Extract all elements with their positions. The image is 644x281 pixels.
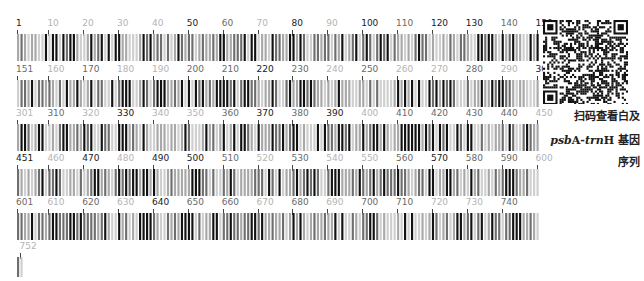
position-label: 560 bbox=[396, 153, 413, 163]
qr-code-icon bbox=[543, 20, 628, 104]
position-label: 710 bbox=[396, 197, 413, 207]
barcode-row-451-600: 4514604704804905005105205305405505605705… bbox=[17, 153, 541, 195]
position-label: 40 bbox=[152, 18, 163, 28]
position-label: 660 bbox=[222, 197, 239, 207]
position-label: 80 bbox=[291, 18, 302, 28]
position-label: 620 bbox=[82, 197, 99, 207]
position-label: 650 bbox=[187, 197, 204, 207]
position-label: 490 bbox=[152, 153, 169, 163]
position-label: 470 bbox=[82, 153, 99, 163]
barcode-row-301-450: 3013103203303403503603703803904004104204… bbox=[17, 108, 541, 150]
sequence-bars bbox=[17, 80, 541, 106]
barcode-row-1-150: 1102030405060708090100110120130140150 bbox=[17, 18, 541, 60]
sequence-bars bbox=[17, 257, 541, 281]
position-label: 601 bbox=[16, 197, 33, 207]
position-labels: 1511601701801902002102202302402502602702… bbox=[17, 64, 541, 76]
position-label: 410 bbox=[396, 108, 413, 118]
position-label: 140 bbox=[501, 18, 518, 28]
position-label: 680 bbox=[291, 197, 308, 207]
position-label: 752 bbox=[19, 241, 36, 251]
barcode-row-751-752: 752 bbox=[17, 241, 541, 281]
position-label: 90 bbox=[326, 18, 337, 28]
position-label: 540 bbox=[326, 153, 343, 163]
caption-line-2: psbA-trnH 基因 bbox=[536, 134, 640, 148]
sequence-bars bbox=[17, 213, 541, 239]
position-label: 290 bbox=[501, 64, 518, 74]
position-label: 530 bbox=[291, 153, 308, 163]
position-label: 180 bbox=[117, 64, 134, 74]
gene-name-trn: trn bbox=[585, 134, 604, 147]
caption-line-1: 扫码查看白及 bbox=[536, 110, 640, 124]
position-label: 690 bbox=[326, 197, 343, 207]
position-label: 570 bbox=[431, 153, 448, 163]
position-label: 301 bbox=[16, 108, 33, 118]
position-label: 280 bbox=[466, 64, 483, 74]
sequence-bars bbox=[17, 169, 541, 195]
position-label: 330 bbox=[117, 108, 134, 118]
position-label: 260 bbox=[396, 64, 413, 74]
position-label: 740 bbox=[501, 197, 518, 207]
position-label: 160 bbox=[47, 64, 64, 74]
position-labels: 6016106206306406506606706806907007107207… bbox=[17, 197, 541, 209]
position-label: 151 bbox=[16, 64, 33, 74]
sequence-bars bbox=[17, 124, 541, 150]
position-label: 720 bbox=[431, 197, 448, 207]
position-label: 240 bbox=[326, 64, 343, 74]
position-label: 430 bbox=[466, 108, 483, 118]
position-label: 130 bbox=[466, 18, 483, 28]
position-label: 310 bbox=[47, 108, 64, 118]
barcode-row-151-300: 1511601701801902002102202302402502602702… bbox=[17, 64, 541, 106]
position-label: 190 bbox=[152, 64, 169, 74]
caption-line-3: 序列 bbox=[536, 156, 640, 170]
position-label: 510 bbox=[222, 153, 239, 163]
position-label: 590 bbox=[501, 153, 518, 163]
position-label: 50 bbox=[187, 18, 198, 28]
position-label: 610 bbox=[47, 197, 64, 207]
position-label: 380 bbox=[291, 108, 308, 118]
position-labels: 752 bbox=[17, 241, 541, 253]
position-label: 440 bbox=[501, 108, 518, 118]
position-label: 250 bbox=[361, 64, 378, 74]
position-label: 200 bbox=[187, 64, 204, 74]
position-label: 10 bbox=[47, 18, 58, 28]
position-label: 230 bbox=[291, 64, 308, 74]
position-label: 520 bbox=[257, 153, 274, 163]
position-labels: 3013103203303403503603703803904004104204… bbox=[17, 108, 541, 120]
position-label: 550 bbox=[361, 153, 378, 163]
position-labels: 1102030405060708090100110120130140150 bbox=[17, 18, 541, 30]
position-label: 100 bbox=[361, 18, 378, 28]
position-label: 70 bbox=[257, 18, 268, 28]
position-label: 640 bbox=[152, 197, 169, 207]
position-label: 500 bbox=[187, 153, 204, 163]
position-label: 360 bbox=[222, 108, 239, 118]
position-label: 30 bbox=[117, 18, 128, 28]
position-label: 460 bbox=[47, 153, 64, 163]
position-label: 270 bbox=[431, 64, 448, 74]
position-label: 170 bbox=[82, 64, 99, 74]
position-label: 350 bbox=[187, 108, 204, 118]
position-label: 480 bbox=[117, 153, 134, 163]
position-label: 390 bbox=[326, 108, 343, 118]
position-label: 700 bbox=[361, 197, 378, 207]
position-label: 420 bbox=[431, 108, 448, 118]
position-label: 20 bbox=[82, 18, 93, 28]
position-label: 220 bbox=[257, 64, 274, 74]
position-label: 670 bbox=[257, 197, 274, 207]
position-labels: 4514604704804905005105205305405505605705… bbox=[17, 153, 541, 165]
position-label: 730 bbox=[466, 197, 483, 207]
barcode-row-601-750: 6016106206306406506606706806907007107207… bbox=[17, 197, 541, 239]
position-label: 320 bbox=[82, 108, 99, 118]
position-label: 630 bbox=[117, 197, 134, 207]
position-label: 60 bbox=[222, 18, 233, 28]
gene-name-psb: psb bbox=[550, 134, 572, 147]
position-label: 120 bbox=[431, 18, 448, 28]
position-label: 110 bbox=[396, 18, 413, 28]
qr-code[interactable] bbox=[543, 20, 628, 104]
position-label: 400 bbox=[361, 108, 378, 118]
position-label: 340 bbox=[152, 108, 169, 118]
position-label: 580 bbox=[466, 153, 483, 163]
position-label: 370 bbox=[257, 108, 274, 118]
position-label: 451 bbox=[16, 153, 33, 163]
position-label: 210 bbox=[222, 64, 239, 74]
position-label: 1 bbox=[16, 18, 22, 28]
